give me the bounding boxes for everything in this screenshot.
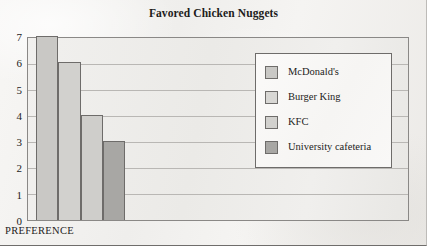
y-tick-label: 5 <box>0 84 22 95</box>
bar-group <box>36 36 125 220</box>
legend: McDonald's Burger King KFC University ca… <box>255 53 392 168</box>
y-tick-label: 6 <box>0 58 22 69</box>
chart-figure: Favored Chicken Nuggets 7 6 5 4 3 2 1 0 … <box>0 0 427 246</box>
legend-label: University cafeteria <box>288 142 371 153</box>
y-tick-label: 4 <box>0 110 22 121</box>
x-axis-label: PREFERENCE <box>5 225 74 236</box>
bar-burger-king <box>58 62 80 220</box>
legend-label: McDonald's <box>288 67 339 78</box>
legend-swatch-university-cafeteria <box>265 141 278 154</box>
y-tick-label: 7 <box>0 32 22 43</box>
bar-kfc <box>81 115 103 220</box>
y-tick-label: 1 <box>0 189 22 200</box>
legend-item: KFC <box>256 110 391 135</box>
y-tick-label: 3 <box>0 137 22 148</box>
bar-university-cafeteria <box>103 141 125 220</box>
legend-item: University cafeteria <box>256 135 391 160</box>
legend-item: McDonald's <box>256 60 391 85</box>
legend-label: Burger King <box>288 92 341 103</box>
legend-label: KFC <box>288 117 308 128</box>
chart-title: Favored Chicken Nuggets <box>0 7 427 19</box>
y-tick-label: 2 <box>0 163 22 174</box>
legend-swatch-mcdonalds <box>265 66 278 79</box>
legend-swatch-burger-king <box>265 91 278 104</box>
y-axis: 7 6 5 4 3 2 1 0 <box>0 37 22 221</box>
legend-swatch-kfc <box>265 116 278 129</box>
bar-mcdonalds <box>36 36 58 220</box>
legend-item: Burger King <box>256 85 391 110</box>
